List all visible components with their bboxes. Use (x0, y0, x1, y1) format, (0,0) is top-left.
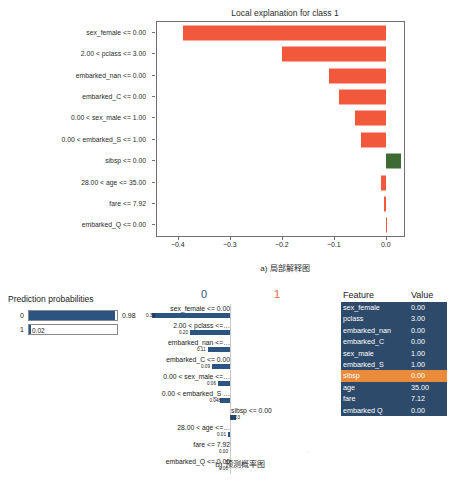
x-tickmark (282, 237, 283, 240)
lime-weight-value: 0.00 (219, 449, 228, 454)
panel-prediction-probability: Prediction probabilities 00.9810.02 0 1 … (0, 286, 463, 494)
probability-row: 00.98 (8, 309, 143, 321)
cell-feature: embarked_nan (343, 325, 411, 336)
prediction-probabilities-rows: 00.9810.02 (8, 309, 143, 335)
cell-feature: embarked_S (343, 359, 411, 370)
lime-weight-value: 0.048 (209, 398, 221, 403)
probability-class-label: 0 (8, 312, 28, 319)
lime-weight-row: embarked_nan <=…0.11 (146, 338, 326, 355)
lime-weight-row: 0.00 < embarked_S …0.048 (146, 389, 326, 406)
y-tickmark (152, 203, 155, 204)
bar-series (157, 22, 404, 236)
lime-weight-value: 0.39 (146, 313, 155, 318)
stray-mark-icon: · (307, 448, 309, 454)
panel-local-explanation: Local explanation for class 1 sex_female… (0, 0, 463, 286)
bar (381, 175, 386, 190)
lime-weight-rows: sex_female <= 0.000.392.00 < pclass <=…0… (146, 304, 326, 474)
lime-weight-value: 0.06 (207, 381, 216, 386)
probability-bar-track: 0.02 (28, 324, 118, 335)
y-tick-label: 2.00 < pclass <= 3.00 (81, 50, 146, 57)
lime-weight-value: 0.09 (201, 364, 210, 369)
lime-weight-value: 0.11 (197, 347, 206, 352)
x-tick-label: −0.3 (223, 241, 237, 248)
cell-feature: age (343, 382, 411, 393)
table-row: embarked_nan0.00 (341, 325, 447, 336)
y-tickmark (152, 32, 155, 33)
y-tickmark (152, 53, 155, 54)
lime-weight-bar (218, 381, 230, 386)
x-tick-label: 0.0 (381, 241, 391, 248)
cell-feature: embarked Q (343, 405, 411, 416)
y-tickmark (152, 224, 155, 225)
lime-weight-row: sex_female <= 0.000.39 (146, 304, 326, 321)
cell-feature: sex_female (343, 302, 411, 313)
bar (339, 89, 386, 104)
lime-weight-row: sibsp <= 0.000.03 (146, 406, 326, 423)
x-tickmark (386, 237, 387, 240)
lime-weight-bar (208, 347, 230, 352)
caption-a: a) 局部解释图 (160, 262, 410, 273)
bar (361, 132, 386, 147)
y-tick-label: 28.00 < age <= 35.00 (81, 178, 146, 185)
y-tick-label: 0.00 < sex_male <= 1.00 (71, 114, 146, 121)
y-tick-label: fare <= 7.92 (109, 199, 146, 206)
probability-value: 0.02 (32, 325, 45, 335)
cell-value: 0.00 (411, 336, 445, 347)
cell-feature: sibsp (343, 370, 411, 381)
probability-bar-fill (29, 311, 115, 320)
cell-value: 7.12 (411, 393, 445, 404)
y-tick-label: sibsp <= 0.00 (105, 157, 146, 164)
cell-value: 0.00 (411, 370, 445, 381)
table-header-row: Feature Value (341, 290, 447, 302)
prediction-probabilities-title: Prediction probabilities (8, 294, 143, 304)
table-row: sex_female0.00 (341, 302, 447, 313)
bar (384, 196, 386, 211)
feature-value-table: Feature Value sex_female0.00pclass3.00em… (341, 290, 447, 416)
probability-value: 0.98 (122, 312, 136, 319)
table-row: pclass3.00 (341, 313, 447, 324)
y-tickmark (152, 75, 155, 76)
cell-value: 1.00 (411, 348, 445, 359)
lime-weight-value: 0.01 (217, 432, 226, 437)
table-row: fare7.12 (341, 393, 447, 404)
lime-weight-row: 2.00 < pclass <=…0.20 (146, 321, 326, 338)
class-headers: 0 1 (146, 288, 326, 304)
lime-weight-bar (220, 398, 230, 403)
cell-feature: embarked_C (343, 336, 411, 347)
table-row: age35.00 (341, 382, 447, 393)
y-tick-label: embarked_nan <= 0.00 (76, 71, 146, 78)
table-row: embarked_S1.00 (341, 359, 447, 370)
x-tickmark (334, 237, 335, 240)
y-tick-label: embarked_C <= 0.00 (82, 92, 146, 99)
table-row: sex_male1.00 (341, 348, 447, 359)
lime-weight-bar (228, 432, 230, 437)
table-row: sibsp0.00 (341, 370, 447, 381)
lime-weight-row: 28.00 < age <=…0.01 (146, 423, 326, 440)
cell-value: 1.00 (411, 359, 445, 370)
prediction-probabilities: Prediction probabilities 00.9810.02 (8, 294, 143, 337)
lime-weight-row: embarked_C <= 0.000.09 (146, 355, 326, 372)
bar (386, 154, 402, 169)
table-row: embarked Q0.00 (341, 405, 447, 416)
bar (183, 25, 386, 40)
y-tickmark (152, 139, 155, 140)
y-tick-label: embarked_Q <= 0.00 (82, 221, 146, 228)
table-row: embarked_C0.00 (341, 336, 447, 347)
caption-b: b) 预测概率图 (150, 458, 330, 469)
x-axis-labels: −0.4−0.3−0.2−0.10.0 (156, 241, 405, 253)
lime-weight-bar (152, 313, 230, 318)
x-tick-label: −0.1 (327, 241, 341, 248)
y-tickmark (152, 117, 155, 118)
lime-weight-chart: 0 1 sex_female <= 0.000.392.00 < pclass … (146, 288, 326, 476)
probability-row: 10.02 (8, 323, 143, 335)
cell-feature: sex_male (343, 348, 411, 359)
cell-feature: pclass (343, 313, 411, 324)
cell-value: 0.00 (411, 302, 445, 313)
bar (386, 218, 387, 233)
y-tick-label: 0.00 < embarked_S <= 1.00 (62, 135, 146, 142)
lime-weight-bar (190, 330, 230, 335)
bar (282, 47, 386, 62)
cell-value: 0.00 (411, 325, 445, 336)
class-0-label: 0 (201, 288, 207, 300)
y-tick-label: sex_female <= 0.00 (86, 28, 146, 35)
